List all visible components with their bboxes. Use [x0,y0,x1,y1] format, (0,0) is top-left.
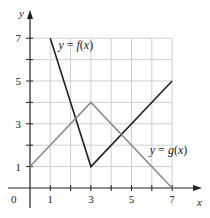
series-g-label: y = g(x) [149,143,187,157]
y-axis-arrow-icon [27,10,33,19]
x-tick-label: 5 [129,193,135,205]
y-tick-label: 7 [16,32,22,44]
y-tick-label: 5 [16,75,22,87]
x-tick-label: 7 [169,193,175,205]
function-graph: 13571357 y = f(x)y = g(x) x y 0 [0,0,210,218]
x-axis-label: x [196,196,202,208]
series-lines [30,38,172,188]
origin-label: 0 [11,193,17,205]
y-tick-label: 1 [16,161,22,173]
axis-ticks [26,38,172,191]
x-tick-label: 1 [48,193,54,205]
x-tick-label: 3 [88,193,94,205]
y-tick-label: 3 [16,118,22,130]
y-axis-label: y [18,7,24,19]
series-labels: y = f(x)y = g(x) [57,38,187,157]
axes [8,10,202,208]
series-f-label: y = f(x) [57,38,93,52]
x-axis-arrow-icon [193,185,202,191]
